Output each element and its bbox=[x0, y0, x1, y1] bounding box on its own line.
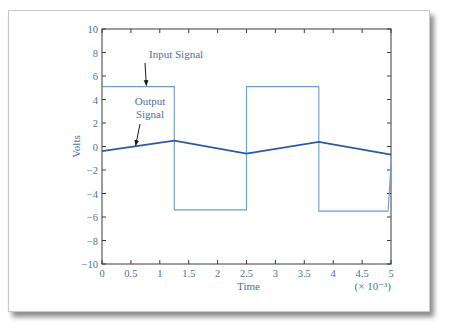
annotations: Input SignalOutputSignal bbox=[135, 48, 203, 146]
input-signal-annotation: Input Signal bbox=[149, 48, 203, 60]
axes: 00.511.522.533.544.551086420−2−4−6−8−10T… bbox=[70, 24, 394, 293]
y-axis-title: Volts bbox=[70, 135, 82, 157]
y-tick-label: −4 bbox=[87, 189, 99, 200]
x-tick-label: 0 bbox=[99, 268, 104, 279]
output-signal-arrow bbox=[136, 124, 140, 146]
x-tick-label: 2.5 bbox=[240, 268, 253, 279]
x-multiplier-label: (× 10⁻³) bbox=[355, 280, 392, 293]
x-tick-label: 3 bbox=[273, 268, 278, 279]
x-tick-label: 1 bbox=[157, 268, 162, 279]
x-tick-label: 1.5 bbox=[182, 268, 195, 279]
x-tick-label: 4.5 bbox=[356, 268, 369, 279]
input-signal-arrow bbox=[145, 63, 146, 86]
y-tick-label: 8 bbox=[93, 48, 98, 59]
x-tick-label: 2 bbox=[215, 268, 220, 279]
y-tick-label: 2 bbox=[93, 118, 98, 129]
x-tick-label: 4 bbox=[331, 268, 337, 279]
y-tick-label: 0 bbox=[93, 142, 98, 153]
y-tick-label: −6 bbox=[87, 212, 98, 223]
output-signal-annotation-line1: Output bbox=[135, 95, 166, 107]
line-chart: 00.511.522.533.544.551086420−2−4−6−8−10T… bbox=[0, 0, 471, 335]
output-signal-annotation-line2: Signal bbox=[136, 108, 164, 120]
y-tick-label: −2 bbox=[87, 165, 98, 176]
x-tick-label: 5 bbox=[388, 268, 393, 279]
y-tick-label: 4 bbox=[93, 95, 99, 106]
y-tick-label: −8 bbox=[87, 236, 98, 247]
x-axis-title: Time bbox=[237, 280, 260, 292]
x-tick-label: 0.5 bbox=[124, 268, 137, 279]
y-tick-label: −10 bbox=[82, 259, 98, 270]
y-tick-label: 6 bbox=[93, 71, 98, 82]
x-tick-label: 3.5 bbox=[298, 268, 311, 279]
y-tick-label: 10 bbox=[88, 24, 99, 35]
